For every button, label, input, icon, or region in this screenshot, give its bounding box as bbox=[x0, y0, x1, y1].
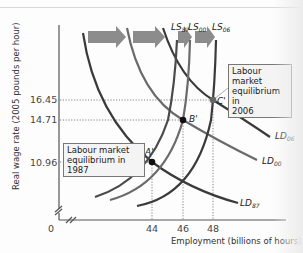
shift-arrow-icon bbox=[88, 26, 126, 48]
y-axis-title: Real wage rate (2005 pounds per hour) bbox=[11, 22, 21, 190]
point-a-label: A' bbox=[144, 147, 154, 157]
shift-arrow-icon bbox=[133, 26, 165, 48]
x-tick-48: 48 bbox=[207, 223, 219, 234]
origin-label: 0 bbox=[48, 223, 54, 234]
page-edge-shadow bbox=[273, 0, 303, 253]
x-tick-46: 46 bbox=[177, 223, 189, 234]
ls87-label: LS87 bbox=[171, 22, 190, 33]
x-tick-44: 44 bbox=[146, 223, 158, 234]
y-tick-14-71: 14.71 bbox=[30, 114, 57, 125]
point-b bbox=[180, 117, 187, 124]
point-c bbox=[210, 97, 217, 104]
labour-market-chart: 16.45 14.71 10.96 0 44 46 48 Employment … bbox=[0, 0, 303, 253]
point-a bbox=[149, 159, 156, 166]
point-c-label: C' bbox=[217, 96, 226, 106]
annotation-1987: Labour market equilibrium in 1987 bbox=[63, 143, 145, 177]
ld87-label: LD87 bbox=[240, 198, 260, 209]
y-tick-10-96: 10.96 bbox=[30, 157, 57, 168]
point-b-label: B' bbox=[189, 114, 198, 124]
ls00-label: LS00 bbox=[188, 22, 207, 33]
y-tick-16-45: 16.45 bbox=[30, 94, 57, 105]
ls06-label: LS06 bbox=[212, 22, 231, 33]
